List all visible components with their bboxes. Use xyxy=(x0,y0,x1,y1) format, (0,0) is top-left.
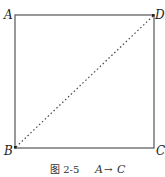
square xyxy=(15,15,154,148)
vertex-label-b: B xyxy=(3,144,13,158)
caption-arrow: → xyxy=(104,164,113,175)
diagonal-bd xyxy=(16,16,153,147)
caption-prefix: 图 2-5 xyxy=(50,164,79,175)
vertex-label-a: A xyxy=(3,8,13,22)
caption-from: A xyxy=(94,163,103,176)
point-b-marker xyxy=(14,146,17,149)
caption-to: C xyxy=(117,163,126,176)
vertex-label-d: D xyxy=(154,8,165,22)
vertex-label-c: C xyxy=(156,144,165,158)
square-diagram: A D B C 图 2-5 A → C xyxy=(0,0,165,177)
